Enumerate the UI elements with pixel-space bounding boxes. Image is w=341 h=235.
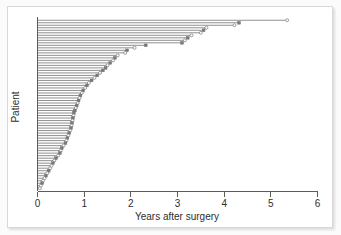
endpoint-marker-censored xyxy=(124,51,127,54)
x-axis-tick-label: 5 xyxy=(268,198,274,209)
x-axis-tick-label: 6 xyxy=(315,198,321,209)
endpoint-marker-censored xyxy=(199,31,202,34)
figure-panel: 0123456 Years after surgery Patient xyxy=(7,6,333,228)
x-axis-tick-label: 2 xyxy=(128,198,134,209)
x-axis-ticks-group xyxy=(38,192,318,197)
endpoint-marker-censored xyxy=(112,59,115,62)
endpoint-markers-group xyxy=(38,19,288,190)
endpoint-marker-event xyxy=(202,29,205,32)
endpoint-marker-event xyxy=(238,21,241,24)
x-axis-title: Years after surgery xyxy=(135,211,219,222)
x-axis-tick-label: 3 xyxy=(175,198,181,209)
endpoint-marker-censored xyxy=(99,71,102,74)
endpoint-marker-event xyxy=(186,36,189,39)
endpoint-marker-censored xyxy=(116,54,119,57)
endpoint-marker-censored xyxy=(233,24,236,27)
endpoint-marker-censored xyxy=(183,39,186,42)
endpoint-marker-event xyxy=(90,79,93,82)
endpoint-marker-censored xyxy=(286,19,289,22)
x-axis-tick-label: 0 xyxy=(35,198,41,209)
survival-segment-chart: 0123456 Years after surgery Patient xyxy=(8,7,334,229)
endpoint-marker-censored xyxy=(190,34,193,37)
y-axis-title: Patient xyxy=(10,91,21,122)
endpoint-marker-censored xyxy=(93,76,96,79)
plot-area: 0123456 Years after surgery Patient xyxy=(8,7,334,229)
x-axis-tick-labels-group: 0123456 xyxy=(35,198,321,209)
endpoint-marker-event xyxy=(109,61,112,64)
endpoint-marker-censored xyxy=(205,26,208,29)
x-axis-tick-label: 4 xyxy=(221,198,227,209)
endpoint-marker-censored xyxy=(133,46,136,49)
endpoint-marker-censored xyxy=(38,187,41,190)
endpoint-marker-event xyxy=(96,74,99,77)
endpoint-marker-event xyxy=(181,41,184,44)
screenshot-root: 0123456 Years after surgery Patient xyxy=(0,0,341,235)
endpoint-marker-event xyxy=(104,66,107,69)
endpoint-marker-event xyxy=(144,44,147,47)
endpoint-marker-event xyxy=(101,69,104,72)
bar-segments-group xyxy=(38,20,288,188)
x-axis-tick-label: 1 xyxy=(81,198,87,209)
